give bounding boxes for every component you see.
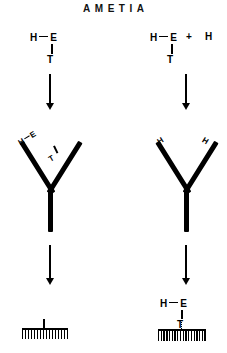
left-molecule-top: HE T xyxy=(30,30,57,43)
page-title: AMETIA xyxy=(0,3,227,14)
left-y-antibody: HE T xyxy=(10,130,100,225)
bond-vertical-icon xyxy=(53,146,58,154)
arrow-head-icon xyxy=(46,103,54,110)
right-molecule-bottom: HE T xyxy=(160,296,187,309)
arrow-head-icon xyxy=(182,278,190,285)
left-hatched-surface xyxy=(22,328,68,348)
bond-vertical-icon xyxy=(181,310,183,319)
molecule-row-top: HE xyxy=(30,30,57,43)
bond-horizontal-icon xyxy=(39,36,48,37)
right-molecule-top: HE T xyxy=(150,30,177,43)
lone-atom-h: H xyxy=(205,31,212,43)
arrow-shaft xyxy=(185,74,187,104)
y-right-arm xyxy=(183,141,219,195)
left-arrow-top xyxy=(40,74,60,110)
surface-teeth xyxy=(158,331,206,341)
right-arrow-top xyxy=(176,74,196,110)
right-arrow-bottom xyxy=(176,245,196,285)
bond-vertical-icon xyxy=(51,44,53,54)
bond-vertical-icon xyxy=(171,44,173,54)
atom-e: E xyxy=(180,297,187,310)
diagram-canvas: AMETIA HE T HE T xyxy=(0,0,227,353)
left-arrow-bottom xyxy=(40,245,60,285)
atom-t: T xyxy=(167,54,173,65)
right-hatched-surface xyxy=(158,329,206,349)
bond-horizontal-icon xyxy=(24,135,30,139)
bond-horizontal-icon xyxy=(169,302,178,303)
right-y-antibody: H H xyxy=(146,130,227,225)
dotted-link-icon xyxy=(181,320,182,329)
arrow-head-icon xyxy=(46,278,54,285)
plus-sign: + xyxy=(186,31,192,43)
arrow-shaft xyxy=(185,245,187,279)
bond-horizontal-icon xyxy=(159,36,168,37)
arrow-head-icon xyxy=(182,103,190,110)
y-stem xyxy=(184,190,189,232)
y-right-arm xyxy=(47,141,83,195)
atom-t: T xyxy=(47,54,53,65)
y-stem xyxy=(48,190,53,232)
atom-e: E xyxy=(170,31,177,44)
arrow-shaft xyxy=(49,245,51,279)
atom-h: H xyxy=(30,31,37,44)
y-left-arm-label: HE xyxy=(16,128,39,149)
y-right-arm-label: H xyxy=(200,136,210,147)
molecule-row-top: HE xyxy=(160,296,187,309)
molecule-row-top: HE xyxy=(150,30,177,43)
atom-e: E xyxy=(50,31,57,44)
arrow-shaft xyxy=(49,74,51,104)
y-left-arm-sublabel: T xyxy=(47,153,56,163)
atom-h: H xyxy=(160,297,167,310)
atom-h: H xyxy=(150,31,157,44)
surface-teeth xyxy=(22,330,68,339)
